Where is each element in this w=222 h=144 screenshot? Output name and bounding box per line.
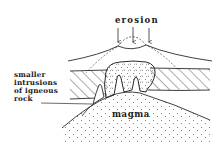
magma-label: magma (112, 109, 150, 119)
eroded-dome-outline (118, 37, 146, 46)
erosion-arrows (118, 27, 149, 42)
intrusions-label: smaller intrusions of igneous rock (14, 71, 58, 103)
strata-layer-right (148, 68, 210, 91)
intrusions-label-line: rock (14, 95, 58, 103)
geology-diagram: erosion smaller intrusions of igneous ro… (0, 0, 222, 144)
erosion-label: erosion (115, 15, 159, 25)
label-leader-line (41, 103, 92, 104)
ground-surface (68, 45, 212, 61)
